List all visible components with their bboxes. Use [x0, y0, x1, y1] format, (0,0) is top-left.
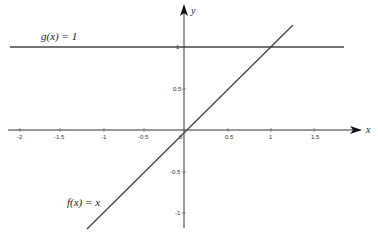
y-tick-label: -1 — [175, 210, 181, 216]
series-f-label: f(x) = x — [67, 196, 100, 209]
chart: x y -2 -1.5 -1 -0.5 0 0.5 1 1.5 1 0.5 -0… — [0, 0, 378, 242]
x-tick-label: 1 — [269, 134, 273, 140]
y-tick-label: 0.5 — [173, 86, 182, 92]
x-tick-label: 1.5 — [311, 134, 320, 140]
y-tick-label: -0.5 — [170, 169, 181, 175]
x-tick-label: 0.5 — [225, 134, 234, 140]
x-tick-label: -0.5 — [138, 134, 149, 140]
series-f-line — [87, 25, 293, 229]
x-axis-label: x — [365, 124, 371, 135]
x-tick-label: -1.5 — [54, 134, 65, 140]
x-tick-label: -1 — [101, 134, 107, 140]
y-axis-label: y — [190, 5, 196, 16]
x-tick-label: -2 — [17, 134, 23, 140]
series-g-label: g(x) = 1 — [41, 30, 77, 43]
